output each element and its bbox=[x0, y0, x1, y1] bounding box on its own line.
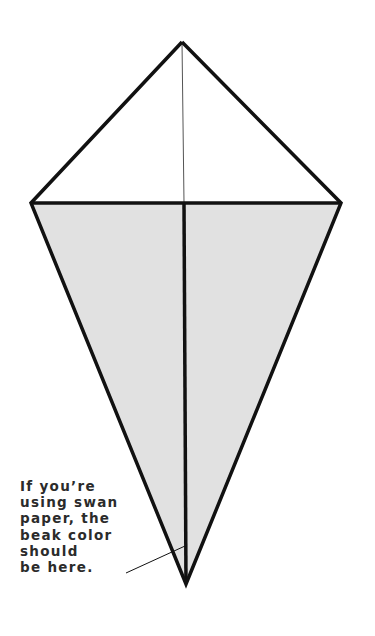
center-fold-thick bbox=[184, 203, 186, 584]
caption-line: using swan bbox=[20, 494, 118, 510]
caption-line: should bbox=[20, 543, 118, 559]
caption-line: If you’re bbox=[20, 478, 118, 494]
beak-color-caption: If you’re using swan paper, the beak col… bbox=[20, 478, 118, 575]
caption-line: be here. bbox=[20, 559, 118, 575]
upper-triangle bbox=[31, 42, 341, 203]
caption-line: beak color bbox=[20, 527, 118, 543]
caption-line: paper, the bbox=[20, 510, 118, 526]
